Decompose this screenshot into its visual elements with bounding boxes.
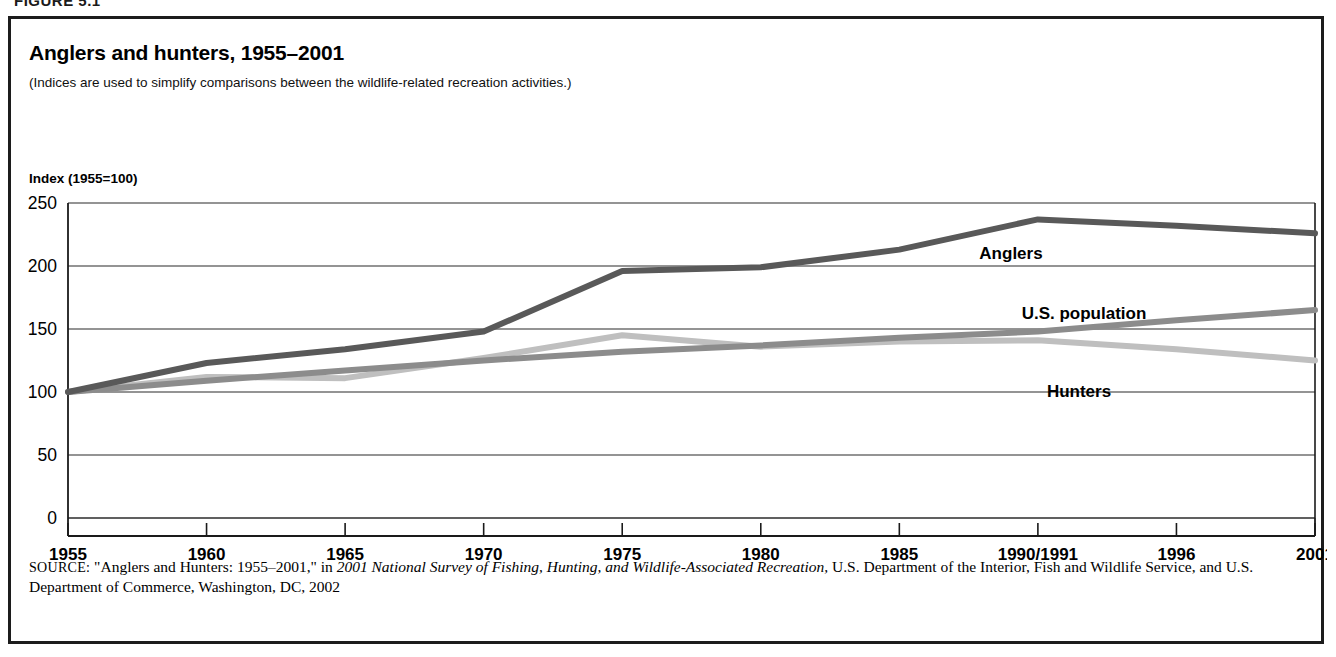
series-label-hunters: Hunters <box>1047 382 1111 401</box>
y-axis-tick-label: 50 <box>38 445 58 465</box>
figure-caption: FIGURE 5.1 <box>14 0 101 6</box>
chart-plot-area: 0501001502002501955196019651970197519801… <box>11 19 1327 647</box>
y-axis-tick-label: 200 <box>28 256 57 276</box>
figure-frame: Anglers and hunters, 1955–2001 (Indices … <box>8 16 1324 644</box>
y-axis-tick-label: 250 <box>28 193 57 213</box>
line-chart-svg: 0501001502002501955196019651970197519801… <box>11 19 1327 647</box>
y-axis-tick-label: 100 <box>28 382 57 402</box>
y-axis-tick-label: 0 <box>47 508 57 528</box>
series-label-us-population: U.S. population <box>1022 304 1147 323</box>
series-line <box>68 335 1315 392</box>
source-label: SOURCE: <box>29 560 90 575</box>
source-text-before: "Anglers and Hunters: 1955–2001," in <box>90 558 336 575</box>
source-note: SOURCE: "Anglers and Hunters: 1955–2001,… <box>29 557 1309 598</box>
y-axis-tick-label: 150 <box>28 319 57 339</box>
source-title-italic: 2001 National Survey of Fishing, Hunting… <box>337 558 829 575</box>
series-label-anglers: Anglers <box>979 244 1042 263</box>
